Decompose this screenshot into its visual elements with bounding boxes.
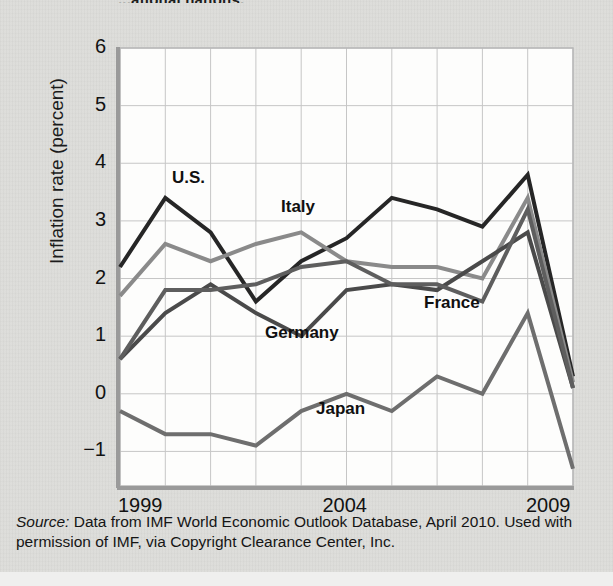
y-axis-title: Inflation rate (percent) [46, 76, 68, 266]
y-tick-label: 1 [76, 323, 106, 346]
y-tick-label: 0 [76, 381, 106, 404]
series-label-japan: Japan [316, 399, 365, 419]
y-tick-label: 4 [76, 150, 106, 173]
series-label-germany: Germany [265, 323, 339, 343]
y-tick-label: −1 [76, 438, 106, 461]
source-label: Source: [16, 513, 69, 530]
y-tick-label: 6 [76, 35, 106, 58]
figure-container: ...ational nations. Inflation rate (perc… [0, 0, 613, 586]
y-tick-label: 3 [76, 208, 106, 231]
source-caption: Source: Data from IMF World Economic Out… [16, 512, 603, 552]
series-label-us: U.S. [172, 168, 205, 188]
chart-gridlines [120, 48, 573, 486]
source-body: Data from IMF World Economic Outlook Dat… [16, 513, 572, 550]
series-label-italy: Italy [281, 197, 315, 217]
y-tick-label: 2 [76, 266, 106, 289]
y-axis-tick-labels: 6543210−1 [72, 0, 106, 486]
y-tick-label: 5 [76, 93, 106, 116]
series-label-france: France [424, 293, 480, 313]
